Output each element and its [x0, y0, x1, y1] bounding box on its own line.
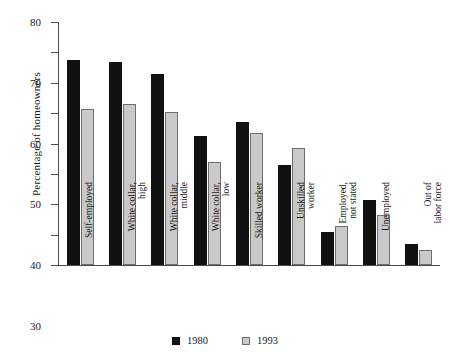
bar-1980[interactable]: [321, 232, 334, 265]
y-tick-label: 40: [30, 259, 41, 271]
y-tick-label: 70: [30, 77, 41, 89]
y-tick-80: 80: [51, 22, 58, 23]
y-tick-label: 60: [30, 138, 41, 150]
x-category-label-line: middle: [179, 182, 189, 272]
x-category-label: White collar,high: [127, 182, 147, 272]
x-category-label: Unskilledworker: [296, 182, 316, 272]
x-category-label-line: White collar,: [169, 182, 179, 272]
legend-item-1993[interactable]: 1993: [242, 335, 278, 346]
bar-1980[interactable]: [194, 136, 207, 265]
legend-label: 1980: [187, 335, 208, 346]
x-category-label: Employed,not stated: [338, 182, 358, 272]
bar-group: [355, 22, 397, 265]
y-tick-label: 30: [30, 320, 41, 332]
bar-group: [228, 22, 270, 265]
legend-label: 1993: [257, 335, 278, 346]
x-category-label-line: Unskilled: [296, 182, 306, 272]
bar-1980[interactable]: [109, 62, 122, 266]
bar-1980[interactable]: [151, 74, 164, 265]
plot-area: 01020304050607080 Self-employedWhite col…: [58, 22, 440, 266]
legend-item-1980[interactable]: 1980: [172, 335, 208, 346]
x-category-label-line: high: [137, 182, 147, 272]
x-category-label-line: Employed,: [338, 182, 348, 272]
bar-1980[interactable]: [236, 122, 249, 265]
x-category-label: Skilled worker: [254, 182, 264, 272]
x-category-label-line: Unemployed: [381, 182, 391, 272]
x-category-label-line: White collar,: [211, 182, 221, 272]
bar-1980[interactable]: [405, 244, 418, 265]
y-tick-label: 50: [30, 198, 41, 210]
chart-legend: 19801993: [0, 335, 450, 346]
x-category-label: Self-employed: [84, 182, 94, 272]
x-category-label-line: Out of: [423, 182, 433, 272]
legend-swatch-icon: [172, 337, 180, 345]
y-tick-50: 50: [51, 113, 58, 114]
bar-1980[interactable]: [67, 60, 80, 265]
x-category-label-line: not stated: [348, 182, 358, 272]
y-tick-20: 20: [51, 204, 58, 205]
x-category-label: White collar,low: [211, 182, 231, 272]
y-tick-30: 30: [51, 174, 58, 175]
bar-1980[interactable]: [278, 165, 291, 265]
y-tick-70: 70: [51, 52, 58, 53]
x-category-label-line: low: [221, 182, 231, 272]
x-category-label-line: White collar,: [127, 182, 137, 272]
y-tick-40: 40: [51, 144, 58, 145]
x-category-label: Out oflabor force: [423, 182, 443, 272]
bar-chart-figure: Percentage of homeowners 010203040506070…: [0, 0, 450, 352]
y-tick-label: 80: [30, 16, 41, 28]
y-tick-0: 0: [51, 265, 58, 266]
y-tick-10: 10: [51, 235, 58, 236]
x-category-label-line: worker: [306, 182, 316, 272]
bar-1980[interactable]: [363, 200, 376, 265]
legend-swatch-icon: [242, 337, 250, 345]
y-tick-60: 60: [51, 83, 58, 84]
bar-group: [59, 22, 101, 265]
x-category-label-line: Self-employed: [84, 182, 94, 272]
x-category-label-line: labor force: [433, 182, 443, 272]
x-category-label: Unemployed: [381, 182, 391, 272]
x-category-label: White collar,middle: [169, 182, 189, 272]
x-category-label-line: Skilled worker: [254, 182, 264, 272]
